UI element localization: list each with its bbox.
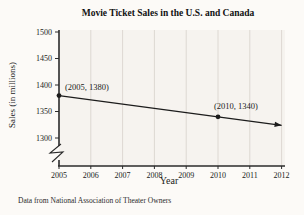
data-point-label-2005: (2005, 1380) [65, 82, 109, 92]
y-axis-label: Sales (in millions) [7, 20, 19, 170]
plot-area [59, 30, 285, 166]
x-axis-label: Year [59, 175, 279, 186]
figure-movie-ticket-sales: Movie Ticket Sales in the U.S. and Canad… [0, 0, 304, 215]
source-caption: Data from National Association of Theate… [18, 196, 300, 205]
data-point-2010 [216, 114, 221, 119]
y-tick-label-1350: 1350 [36, 107, 52, 116]
y-tick-label-1500: 1500 [36, 28, 52, 37]
y-tick-label-1450: 1450 [36, 54, 52, 63]
data-point-label-2010: (2010, 1340) [214, 101, 258, 111]
data-point-2005 [57, 93, 62, 98]
y-tick-label-1400: 1400 [36, 81, 52, 90]
chart-title: Movie Ticket Sales in the U.S. and Canad… [36, 8, 300, 18]
y-tick-label-1300: 1300 [36, 134, 52, 143]
